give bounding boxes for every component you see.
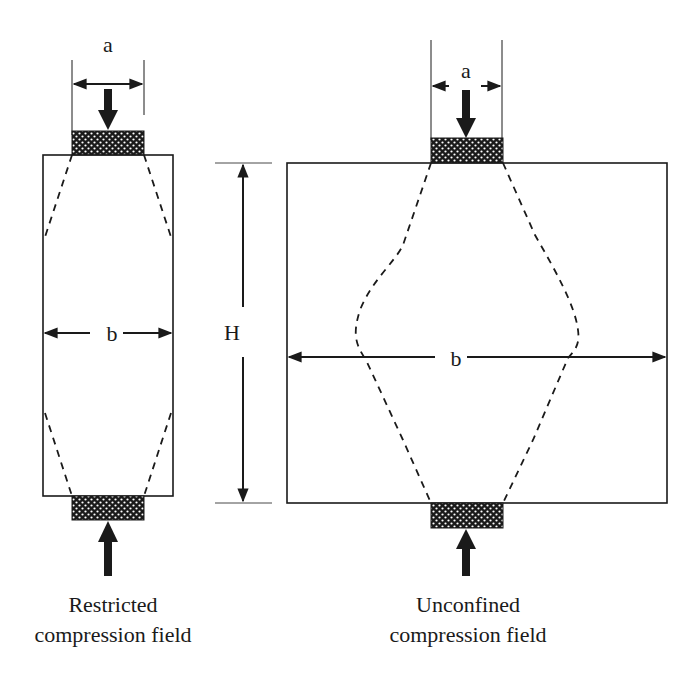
restricted-caption-line2: compression field <box>8 620 218 650</box>
b-label: b <box>451 346 462 371</box>
top-bearing-plate <box>431 138 503 163</box>
bottom-bearing-plate <box>72 496 144 520</box>
restricted-panel: a b <box>43 32 173 576</box>
unconfined-panel: a H b <box>215 40 667 576</box>
bottom-load-arrow-icon <box>456 529 476 576</box>
unconfined-caption-line1: Unconfined <box>358 590 578 620</box>
a-label: a <box>461 58 471 83</box>
bottom-bearing-plate <box>431 503 503 528</box>
unconfined-specimen-outline <box>287 163 667 503</box>
bottom-load-arrow-icon <box>98 521 118 576</box>
unconfined-caption: Unconfined compression field <box>358 590 578 650</box>
stress-field-dashed-bulb <box>356 163 579 503</box>
top-load-arrow-icon <box>456 90 476 138</box>
top-bearing-plate <box>72 131 144 155</box>
unconfined-caption-line2: compression field <box>358 620 578 650</box>
b-label: b <box>107 321 118 346</box>
a-label: a <box>103 32 113 57</box>
h-label: H <box>224 320 240 345</box>
restricted-caption-line1: Restricted <box>8 590 218 620</box>
restricted-caption: Restricted compression field <box>8 590 218 650</box>
top-load-arrow-icon <box>98 89 118 130</box>
